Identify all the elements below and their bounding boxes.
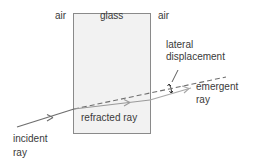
- incident-ray: [17, 109, 74, 127]
- lateral-displacement-label-line2: displacement: [166, 51, 225, 63]
- emergent-ray: [150, 88, 191, 100]
- emergent-ray-label-line1: emergent: [196, 81, 238, 93]
- lateral-displacement-label-line1: lateral: [166, 39, 193, 51]
- incident-ray-label-line1: incident: [13, 133, 47, 145]
- air-left-label: air: [55, 10, 66, 22]
- air-right-label: air: [158, 10, 169, 22]
- refraction-diagram: air glass air lateral displacement emerg…: [0, 0, 254, 165]
- incident-ray-label-line2: ray: [13, 147, 27, 159]
- emergent-ray-label-line2: ray: [196, 94, 210, 106]
- refracted-ray-label: refracted ray: [81, 112, 137, 124]
- glass-label: glass: [100, 10, 123, 22]
- lateral-displacement-pointer: [172, 70, 178, 82]
